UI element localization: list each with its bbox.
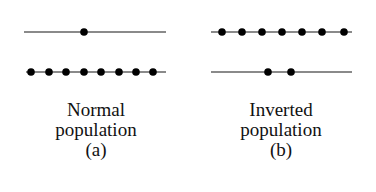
caption-b-label: (b)	[206, 140, 356, 160]
particle-dot	[287, 68, 295, 76]
caption-a-line2: population	[21, 120, 171, 140]
particle-dot	[149, 68, 157, 76]
particle-dot	[80, 28, 88, 36]
energy-level-diagram	[0, 0, 376, 192]
caption-a-label: (a)	[21, 140, 171, 160]
caption-b-line1: Inverted	[206, 100, 356, 120]
particle-dot	[27, 68, 35, 76]
caption-a: Normal population (a)	[21, 100, 171, 160]
particle-dot	[298, 28, 306, 36]
particle-dot	[115, 68, 123, 76]
caption-b-line2: population	[206, 120, 356, 140]
caption-b: Inverted population (b)	[206, 100, 356, 160]
particle-dot	[97, 68, 105, 76]
particle-dot	[278, 28, 286, 36]
particle-dot	[80, 68, 88, 76]
particle-dot	[218, 28, 226, 36]
particle-dot	[45, 68, 53, 76]
particle-dot	[318, 28, 326, 36]
particle-dot	[340, 28, 348, 36]
caption-a-line1: Normal	[21, 100, 171, 120]
particle-dot	[238, 28, 246, 36]
particle-dot	[264, 68, 272, 76]
particle-dot	[132, 68, 140, 76]
particle-dot	[258, 28, 266, 36]
particle-dot	[62, 68, 70, 76]
